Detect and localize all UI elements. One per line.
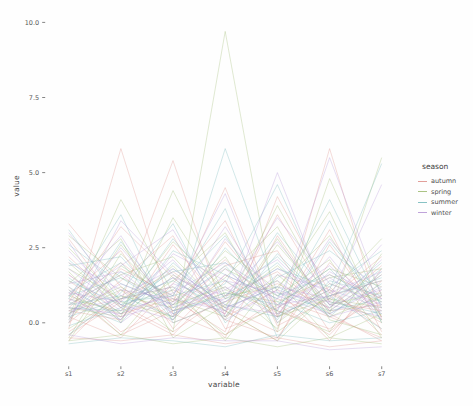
winter-line-swatch-icon xyxy=(418,212,427,213)
legend-label: winter xyxy=(431,210,451,217)
x-tick-label: s1 xyxy=(65,370,73,378)
x-tick-label: s4 xyxy=(221,370,229,378)
legend-label: autumn xyxy=(431,178,456,185)
legend-item-autumn: autumn xyxy=(418,176,472,187)
y-tick-label: 0.0 xyxy=(29,319,39,327)
legend-item-summer: summer xyxy=(418,197,472,208)
legend-item-winter: winter xyxy=(418,208,472,219)
y-axis-title: value xyxy=(12,175,21,197)
legend-title: season xyxy=(422,162,472,171)
y-tick-label: 5.0 xyxy=(29,169,39,177)
y-tick-label: 10.0 xyxy=(25,19,39,27)
x-tick-label: s6 xyxy=(326,370,334,378)
legend-label: spring xyxy=(431,189,451,196)
y-tick-label: 2.5 xyxy=(29,244,39,252)
autumn-line-swatch-icon xyxy=(418,181,427,182)
x-tick-label: s5 xyxy=(274,370,282,378)
legend-label: summer xyxy=(431,199,458,206)
x-tick-label: s7 xyxy=(378,370,386,378)
summer-line-swatch-icon xyxy=(418,202,427,203)
legend: season autumn spring summer winter xyxy=(406,162,472,218)
ggplot-figure: 0.02.55.07.510.0s1s2s3s4s5s6s7 value var… xyxy=(0,0,473,406)
spring-line-swatch-icon xyxy=(418,191,427,192)
legend-item-spring: spring xyxy=(418,187,472,198)
x-tick-label: s2 xyxy=(117,370,125,378)
x-axis-title: variable xyxy=(208,380,240,389)
parallel-coordinates-plot: 0.02.55.07.510.0s1s2s3s4s5s6s7 xyxy=(0,0,473,406)
y-tick-label: 7.5 xyxy=(29,94,39,102)
x-tick-label: s3 xyxy=(169,370,177,378)
